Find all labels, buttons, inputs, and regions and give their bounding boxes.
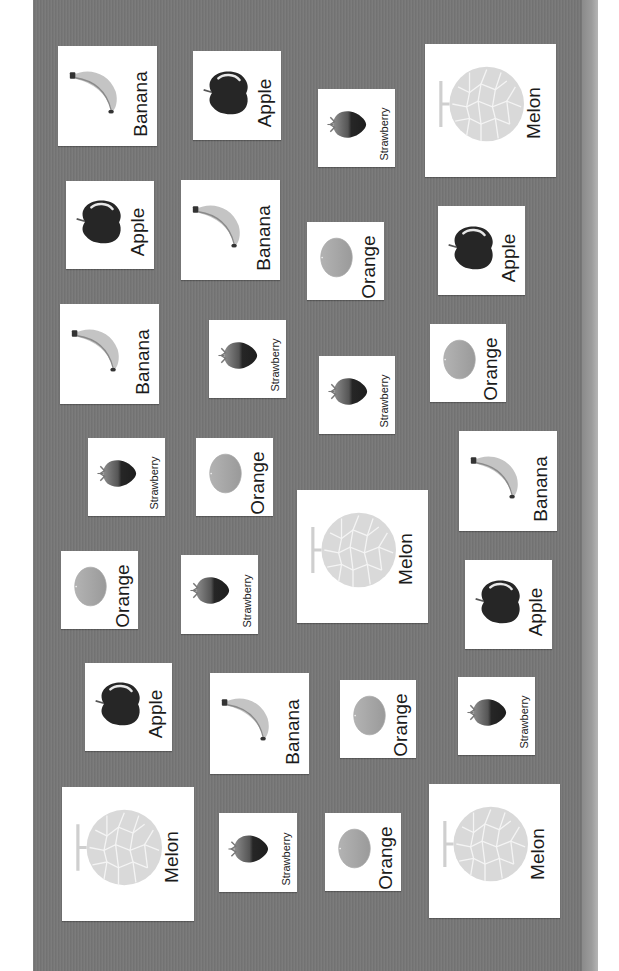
fruit-card-banana: Banana xyxy=(459,431,557,531)
card-label: Strawberry xyxy=(147,457,159,510)
card-label: Orange xyxy=(374,827,396,890)
card-label: Apple xyxy=(254,78,276,127)
fruit-card-strawberry: Strawberry xyxy=(181,555,258,634)
fruit-card-strawberry: Strawberry xyxy=(318,89,395,167)
strawberry-icon xyxy=(96,452,139,495)
fruit-card-melon: Melon xyxy=(62,787,194,921)
strawberry-icon xyxy=(466,691,509,734)
fruit-card-melon: Melon xyxy=(425,44,556,177)
melon-icon xyxy=(75,804,162,891)
card-label: Banana xyxy=(282,699,304,765)
orange-icon xyxy=(204,452,247,495)
board-edge xyxy=(582,0,598,971)
fruit-card-orange: Orange xyxy=(61,551,138,629)
apple-icon xyxy=(447,222,496,271)
fruit-card-orange: Orange xyxy=(307,222,384,300)
strawberry-icon xyxy=(326,103,369,146)
banana-icon xyxy=(469,449,524,504)
orange-icon xyxy=(69,565,112,608)
strawberry-icon xyxy=(327,370,370,413)
banana-icon xyxy=(220,691,275,746)
card-label: Apple xyxy=(145,690,167,739)
fruit-card-orange: Orange xyxy=(196,438,273,516)
fruit-card-strawberry: Strawberry xyxy=(219,813,297,892)
card-label: Strawberry xyxy=(268,339,280,392)
banana-icon xyxy=(68,64,123,119)
fruit-card-apple: Apple xyxy=(85,663,172,751)
orange-icon xyxy=(438,338,481,381)
fruit-card-melon: Melon xyxy=(429,784,560,918)
card-label: Apple xyxy=(127,208,149,257)
fruit-card-orange: Orange xyxy=(430,324,506,402)
fruit-card-strawberry: Strawberry xyxy=(209,320,286,398)
apple-icon xyxy=(94,678,143,727)
melon-icon xyxy=(310,507,396,593)
strawberry-icon xyxy=(227,827,271,871)
card-label: Melon xyxy=(527,828,549,880)
card-label: Strawberry xyxy=(377,375,389,428)
strawberry-icon xyxy=(189,569,232,612)
fruit-card-orange: Orange xyxy=(340,680,416,758)
card-label: Orange xyxy=(389,694,411,757)
apple-icon xyxy=(75,196,124,245)
fruit-card-melon: Melon xyxy=(297,490,428,623)
fruit-card-strawberry: Strawberry xyxy=(319,356,395,434)
card-label: Banana xyxy=(530,456,552,522)
fruit-card-apple: Apple xyxy=(465,560,552,649)
apple-icon xyxy=(474,576,523,625)
fruit-card-apple: Apple xyxy=(438,206,525,295)
card-label: Orange xyxy=(246,452,268,515)
card-label: Banana xyxy=(132,329,154,395)
banana-icon xyxy=(191,198,246,253)
strawberry-icon xyxy=(217,334,260,377)
card-label: Strawberry xyxy=(279,832,291,885)
card-label: Melon xyxy=(523,87,545,139)
card-label: Strawberry xyxy=(240,574,252,627)
card-label: Orange xyxy=(479,338,501,401)
fruit-card-banana: Banana xyxy=(58,46,157,146)
banana-icon xyxy=(70,322,125,377)
apple-icon xyxy=(202,67,251,116)
card-label: Melon xyxy=(395,533,417,585)
card-label: Apple xyxy=(525,587,547,636)
orange-icon xyxy=(348,694,391,737)
fruit-card-strawberry: Strawberry xyxy=(88,438,165,516)
card-label: Strawberry xyxy=(517,696,529,749)
fruit-card-banana: Banana xyxy=(210,673,309,774)
fruit-card-orange: Orange xyxy=(325,813,401,891)
melon-icon xyxy=(438,61,524,147)
fruit-card-banana: Banana xyxy=(60,304,159,404)
fruit-card-strawberry: Strawberry xyxy=(458,677,535,755)
card-label: Orange xyxy=(357,236,379,299)
orange-icon xyxy=(333,827,376,870)
melon-icon xyxy=(442,801,528,887)
card-label: Melon xyxy=(161,831,183,883)
card-label: Banana xyxy=(130,71,152,137)
orange-icon xyxy=(315,236,358,279)
fruit-card-apple: Apple xyxy=(66,181,154,269)
card-label: Orange xyxy=(111,565,133,628)
fruit-card-banana: Banana xyxy=(181,180,280,280)
fruit-card-apple: Apple xyxy=(193,51,281,140)
card-label: Apple xyxy=(498,233,520,282)
card-label: Strawberry xyxy=(377,108,389,161)
card-label: Banana xyxy=(253,205,275,271)
